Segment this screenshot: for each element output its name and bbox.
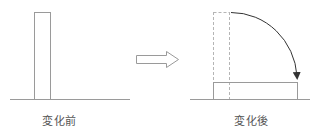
after-panel (190, 12, 310, 100)
before-label: 変化前 (42, 112, 77, 128)
rotation-arc-arrow-icon (231, 12, 297, 76)
transition-arrow-icon (137, 52, 179, 68)
before-panel (10, 13, 130, 100)
fallen-rectangle (214, 83, 298, 100)
upright-rectangle (35, 13, 51, 100)
after-label: 変化後 (234, 112, 269, 128)
ghost-upright-rectangle (214, 12, 230, 99)
